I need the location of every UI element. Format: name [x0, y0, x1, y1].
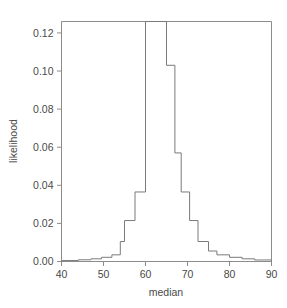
y-tick-label: 0.10: [33, 65, 54, 77]
x-tick-label: 60: [140, 268, 152, 280]
x-tick-label: 90: [266, 268, 278, 280]
y-tick-label: 0.02: [33, 217, 54, 229]
x-tick-label: 50: [98, 268, 110, 280]
x-tick-label: 80: [224, 268, 236, 280]
y-axis-title: likelihood: [7, 119, 19, 163]
histogram-plot: 0.000.020.040.060.080.100.12 40506070809…: [0, 0, 287, 308]
y-tick-label: 0.08: [33, 103, 54, 115]
y-tick-label: 0.12: [33, 27, 54, 39]
x-tick-label: 70: [182, 268, 194, 280]
x-tick-label: 40: [56, 268, 68, 280]
y-tick-label: 0.04: [33, 179, 54, 191]
x-axis-title: median: [149, 286, 184, 298]
chart-figure: 0.000.020.040.060.080.100.12 40506070809…: [0, 0, 287, 308]
y-tick-label: 0.06: [33, 141, 54, 153]
y-tick-label: 0.00: [33, 255, 54, 267]
